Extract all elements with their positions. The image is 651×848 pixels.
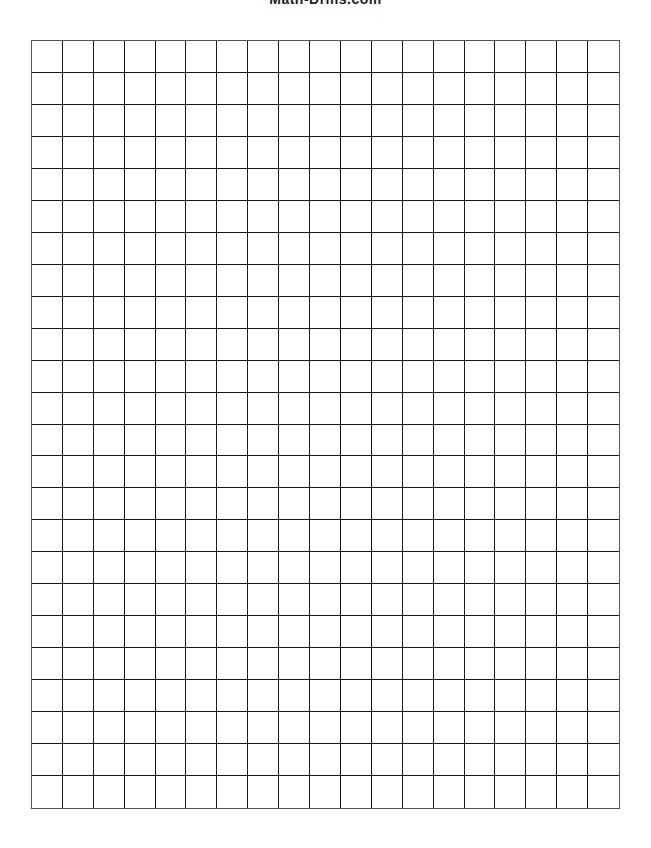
- grid-cell: [526, 680, 557, 712]
- grid-cell: [434, 201, 465, 233]
- grid-cell: [94, 744, 125, 776]
- grid-cell: [186, 265, 217, 297]
- grid-cell: [310, 456, 341, 488]
- grid-cell: [186, 233, 217, 265]
- grid-cell: [125, 680, 156, 712]
- grid-cell: [495, 425, 526, 457]
- grid-cell: [310, 201, 341, 233]
- grid-cell: [557, 680, 588, 712]
- grid-cell: [434, 648, 465, 680]
- grid-cell: [248, 425, 279, 457]
- grid-cell: [186, 456, 217, 488]
- grid-cell: [495, 41, 526, 73]
- grid-cell: [495, 169, 526, 201]
- grid-cell: [403, 648, 434, 680]
- grid-cell: [217, 712, 248, 744]
- grid-cell: [94, 584, 125, 616]
- grid-cell: [495, 712, 526, 744]
- grid-cell: [557, 329, 588, 361]
- grid-cell: [217, 233, 248, 265]
- grid-cell: [279, 361, 310, 393]
- grid-cell: [248, 393, 279, 425]
- grid-cell: [588, 520, 619, 552]
- grid-cell: [310, 361, 341, 393]
- grid-cell: [279, 552, 310, 584]
- grid-cell: [156, 201, 187, 233]
- grid-cell: [63, 425, 94, 457]
- grid-cell: [557, 297, 588, 329]
- grid-cell: [248, 73, 279, 105]
- grid-cell: [63, 41, 94, 73]
- grid-cell: [94, 488, 125, 520]
- grid-cell: [341, 201, 372, 233]
- grid-cell: [465, 233, 496, 265]
- grid-cell: [248, 488, 279, 520]
- grid-cell: [465, 648, 496, 680]
- grid-cell: [32, 680, 63, 712]
- grid-cell: [465, 425, 496, 457]
- grid-cell: [588, 616, 619, 648]
- grid-cell: [63, 265, 94, 297]
- grid-cell: [465, 584, 496, 616]
- grid-cell: [588, 169, 619, 201]
- grid-cell: [248, 105, 279, 137]
- grid-cell: [465, 137, 496, 169]
- grid-cell: [248, 265, 279, 297]
- grid-cell: [217, 137, 248, 169]
- grid-cell: [310, 712, 341, 744]
- grid-cell: [279, 584, 310, 616]
- grid-cell: [156, 744, 187, 776]
- grid-cell: [557, 169, 588, 201]
- grid-cell: [588, 201, 619, 233]
- grid-cell: [465, 520, 496, 552]
- grid-cell: [32, 201, 63, 233]
- grid-cell: [63, 297, 94, 329]
- grid-cell: [434, 73, 465, 105]
- grid-cell: [186, 680, 217, 712]
- grid-cell: [217, 169, 248, 201]
- grid-cell: [341, 488, 372, 520]
- grid-cell: [156, 265, 187, 297]
- grid-cell: [588, 680, 619, 712]
- grid-cell: [341, 297, 372, 329]
- grid-cell: [341, 776, 372, 808]
- grid-cell: [341, 329, 372, 361]
- grid-cell: [403, 137, 434, 169]
- grid-cell: [526, 201, 557, 233]
- grid-cell: [279, 425, 310, 457]
- grid-cell: [557, 73, 588, 105]
- grid-cell: [63, 776, 94, 808]
- grid-cell: [217, 776, 248, 808]
- grid-cell: [186, 520, 217, 552]
- grid-cell: [434, 329, 465, 361]
- grid-cell: [125, 233, 156, 265]
- grid-cell: [94, 361, 125, 393]
- grid-cell: [63, 105, 94, 137]
- grid-cell: [310, 520, 341, 552]
- grid-cell: [248, 201, 279, 233]
- grid-cell: [94, 616, 125, 648]
- grid-cell: [434, 425, 465, 457]
- grid-cell: [63, 73, 94, 105]
- grid-cell: [32, 393, 63, 425]
- grid-cell: [217, 265, 248, 297]
- grid-cell: [341, 680, 372, 712]
- grid-cell: [248, 616, 279, 648]
- grid-cell: [156, 584, 187, 616]
- grid-cell: [63, 169, 94, 201]
- grid-cell: [557, 776, 588, 808]
- grid-cell: [125, 169, 156, 201]
- grid-cell: [125, 648, 156, 680]
- grid-cell: [63, 201, 94, 233]
- grid-cell: [125, 105, 156, 137]
- grid-cell: [495, 137, 526, 169]
- grid-cell: [63, 488, 94, 520]
- grid-cell: [495, 73, 526, 105]
- grid-cell: [341, 712, 372, 744]
- grid-cell: [372, 137, 403, 169]
- grid-cell: [94, 265, 125, 297]
- grid-cell: [156, 776, 187, 808]
- grid-cell: [526, 584, 557, 616]
- grid-cell: [372, 73, 403, 105]
- grid-cell: [310, 425, 341, 457]
